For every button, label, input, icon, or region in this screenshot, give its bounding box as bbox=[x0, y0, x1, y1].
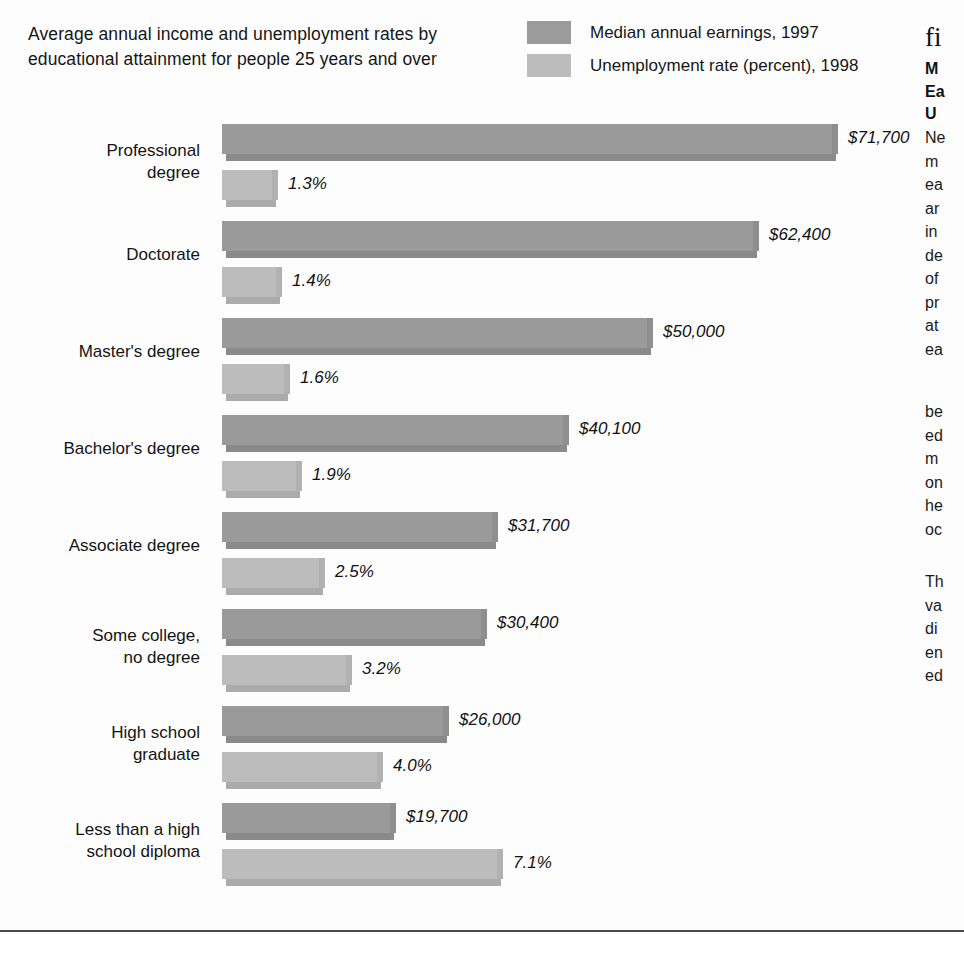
earnings-bar-wrapper bbox=[222, 318, 647, 354]
unemployment-bar-cap bbox=[284, 364, 290, 394]
side-body-paragraph-1: Ne m ea ar in de of pr at ea bbox=[925, 126, 945, 361]
earnings-bar bbox=[222, 124, 832, 154]
unemployment-bar-shadow bbox=[226, 394, 288, 401]
chart-legend: Median annual earnings, 1997 Unemploymen… bbox=[527, 16, 927, 82]
unemployment-bar-wrapper bbox=[222, 267, 276, 303]
earnings-value-label: $19,700 bbox=[406, 807, 467, 827]
chart-row-group: High school graduate$26,0004.0% bbox=[0, 700, 900, 797]
earnings-bar-wrapper bbox=[222, 803, 390, 839]
chart-row-group: Professional degree$71,7001.3% bbox=[0, 118, 900, 215]
bar-chart-plot: Professional degree$71,7001.3%Doctorate$… bbox=[0, 118, 900, 918]
unemployment-bar-cap bbox=[497, 849, 503, 879]
earnings-bar-shadow bbox=[226, 348, 651, 355]
earnings-bar bbox=[222, 803, 390, 833]
chart-row-group: Bachelor's degree$40,1001.9% bbox=[0, 409, 900, 506]
unemployment-bar bbox=[222, 752, 377, 782]
category-label: Some college, no degree bbox=[0, 625, 200, 670]
earnings-bar-face bbox=[222, 803, 390, 833]
category-label: High school graduate bbox=[0, 722, 200, 767]
unemployment-bar bbox=[222, 170, 272, 200]
earnings-bar bbox=[222, 706, 443, 736]
earnings-bar-face bbox=[222, 706, 443, 736]
legend-swatch-unemployment bbox=[527, 54, 571, 77]
unemployment-bar-wrapper bbox=[222, 655, 346, 691]
figure-marker-text: fi bbox=[925, 22, 942, 53]
unemployment-bar-shadow bbox=[226, 588, 323, 595]
unemployment-bar-face bbox=[222, 267, 276, 297]
earnings-bar-shadow bbox=[226, 833, 394, 840]
unemployment-bar-shadow bbox=[226, 200, 276, 207]
unemployment-bar bbox=[222, 849, 497, 879]
earnings-value-label: $26,000 bbox=[459, 710, 520, 730]
unemployment-bar-wrapper bbox=[222, 364, 284, 400]
earnings-bar-wrapper bbox=[222, 221, 753, 257]
category-label: Professional degree bbox=[0, 140, 200, 185]
unemployment-value-label: 3.2% bbox=[362, 659, 401, 679]
unemployment-bar-cap bbox=[296, 461, 302, 491]
unemployment-bar-face bbox=[222, 849, 497, 879]
unemployment-value-label: 4.0% bbox=[393, 756, 432, 776]
chart-row-group: Master's degree$50,0001.6% bbox=[0, 312, 900, 409]
unemployment-bar-cap bbox=[346, 655, 352, 685]
unemployment-bar-face bbox=[222, 752, 377, 782]
unemployment-value-label: 1.6% bbox=[300, 368, 339, 388]
earnings-bar-cap bbox=[563, 415, 569, 445]
unemployment-bar bbox=[222, 364, 284, 394]
unemployment-value-label: 1.4% bbox=[292, 271, 331, 291]
unemployment-bar-cap bbox=[319, 558, 325, 588]
earnings-bar bbox=[222, 415, 563, 445]
earnings-bar-face bbox=[222, 318, 647, 348]
side-heading-text: M Ea U bbox=[925, 58, 945, 126]
earnings-bar-cap bbox=[647, 318, 653, 348]
unemployment-bar-wrapper bbox=[222, 558, 319, 594]
earnings-bar-cap bbox=[481, 609, 487, 639]
earnings-bar-face bbox=[222, 512, 492, 542]
earnings-bar-cap bbox=[390, 803, 396, 833]
unemployment-bar bbox=[222, 655, 346, 685]
side-text-column: fi M Ea U Ne m ea ar in de of pr at ea b… bbox=[925, 0, 964, 930]
chart-title: Average annual income and unemployment r… bbox=[28, 22, 458, 72]
legend-label-earnings: Median annual earnings, 1997 bbox=[590, 23, 819, 43]
earnings-value-label: $40,100 bbox=[579, 419, 640, 439]
unemployment-value-label: 2.5% bbox=[335, 562, 374, 582]
earnings-bar-wrapper bbox=[222, 415, 563, 451]
chart-row-group: Some college, no degree$30,4003.2% bbox=[0, 603, 900, 700]
earnings-value-label: $30,400 bbox=[497, 613, 558, 633]
unemployment-bar-wrapper bbox=[222, 849, 497, 885]
earnings-bar-face bbox=[222, 124, 832, 154]
earnings-bar-wrapper bbox=[222, 706, 443, 742]
unemployment-bar-wrapper bbox=[222, 461, 296, 497]
earnings-bar-cap bbox=[443, 706, 449, 736]
unemployment-bar-face bbox=[222, 558, 319, 588]
earnings-bar-wrapper bbox=[222, 512, 492, 548]
legend-label-unemployment: Unemployment rate (percent), 1998 bbox=[590, 56, 858, 76]
unemployment-value-label: 1.9% bbox=[312, 465, 351, 485]
chart-row-group: Doctorate$62,4001.4% bbox=[0, 215, 900, 312]
unemployment-bar-face bbox=[222, 655, 346, 685]
earnings-value-label: $62,400 bbox=[769, 225, 830, 245]
unemployment-bar-face bbox=[222, 461, 296, 491]
category-label: Master's degree bbox=[0, 341, 200, 363]
unemployment-value-label: 1.3% bbox=[288, 174, 327, 194]
side-body-paragraph-2: be ed m on he oc bbox=[925, 400, 943, 541]
unemployment-bar bbox=[222, 558, 319, 588]
unemployment-bar-cap bbox=[377, 752, 383, 782]
unemployment-bar-shadow bbox=[226, 297, 280, 304]
earnings-bar-wrapper bbox=[222, 609, 481, 645]
earnings-value-label: $71,700 bbox=[848, 128, 909, 148]
unemployment-bar-shadow bbox=[226, 782, 381, 789]
category-label: Less than a high school diploma bbox=[0, 819, 200, 864]
earnings-bar-shadow bbox=[226, 251, 757, 258]
category-label: Bachelor's degree bbox=[0, 438, 200, 460]
earnings-bar-cap bbox=[492, 512, 498, 542]
figure-page: Average annual income and unemployment r… bbox=[0, 0, 964, 955]
category-label: Associate degree bbox=[0, 535, 200, 557]
earnings-bar-shadow bbox=[226, 154, 836, 161]
unemployment-bar-cap bbox=[276, 267, 282, 297]
earnings-bar-shadow bbox=[226, 639, 485, 646]
legend-swatch-earnings bbox=[527, 21, 571, 44]
unemployment-bar-shadow bbox=[226, 685, 350, 692]
earnings-bar-cap bbox=[753, 221, 759, 251]
unemployment-bar bbox=[222, 267, 276, 297]
legend-item-unemployment: Unemployment rate (percent), 1998 bbox=[527, 49, 927, 82]
